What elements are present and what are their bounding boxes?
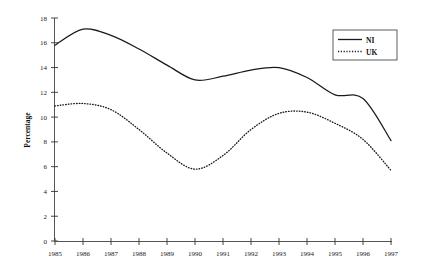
- x-tick-label: 1993: [272, 250, 287, 258]
- legend-border: [333, 30, 397, 60]
- y-tick-label: 10: [40, 114, 48, 122]
- legend-label-ni: NI: [366, 36, 374, 45]
- y-tick-label: 18: [40, 15, 48, 23]
- y-tick-label: 6: [44, 163, 48, 171]
- x-tick-label: 1997: [384, 250, 399, 258]
- x-tick-label: 1992: [244, 250, 259, 258]
- x-tick-label: 1985: [48, 250, 63, 258]
- x-tick-label: 1987: [104, 250, 119, 258]
- y-tick-label: 4: [44, 188, 48, 196]
- y-tick-label: 2: [44, 213, 48, 221]
- x-tick-label: 1994: [300, 250, 315, 258]
- y-tick-label: 14: [40, 64, 48, 72]
- y-axis-title: Percentage: [23, 112, 32, 148]
- x-tick-label: 1988: [132, 250, 147, 258]
- y-tick-label: 12: [40, 89, 48, 97]
- x-tick-label: 1989: [160, 250, 175, 258]
- y-tick-label: 16: [40, 39, 48, 47]
- chart-legend: NI UK: [333, 30, 397, 60]
- chart-canvas: 024681012141618 198519861987198819891990…: [0, 0, 425, 276]
- y-tick-label: 0: [44, 238, 48, 246]
- x-tick-label: 1986: [76, 250, 91, 258]
- x-tick-label: 1991: [216, 250, 231, 258]
- x-tick-label: 1990: [188, 250, 203, 258]
- x-tick-label: 1995: [328, 250, 343, 258]
- y-tick-label: 8: [44, 138, 48, 146]
- x-tick-label: 1996: [356, 250, 371, 258]
- legend-label-uk: UK: [366, 48, 377, 57]
- line-chart: 024681012141618 198519861987198819891990…: [0, 0, 425, 276]
